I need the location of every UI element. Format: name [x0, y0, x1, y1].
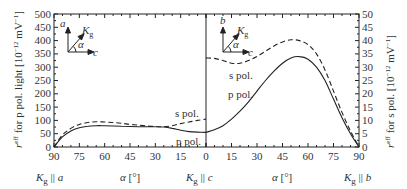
right-y-tick-label: 40	[362, 34, 374, 46]
left-x-tick-label: 60	[99, 150, 111, 162]
right-y-tick-label: 20	[362, 87, 374, 99]
right-y-tick-label: 35	[362, 47, 374, 59]
x-label-alpha-right: α [°]	[272, 171, 292, 183]
right-y-tick-label: 25	[362, 74, 374, 86]
right-s-pol-label: s pol.	[229, 69, 253, 81]
left-y-tick-label: 400	[35, 34, 52, 46]
right-y-tick-label: 10	[362, 114, 374, 126]
right-y-axis-label: reff for s pol. [10−12 mV−1]	[384, 35, 396, 148]
right-y-tick-label: 45	[362, 21, 374, 33]
inset-left-axis-a-label: a	[60, 17, 66, 29]
right-x-tick-label: 15	[226, 150, 238, 162]
left-y-tick-label: 150	[35, 101, 52, 113]
inset-right-axis-b-label: b	[220, 14, 226, 26]
right-x-tick-label: 30	[252, 150, 264, 162]
right-y-tick-label: 5	[362, 127, 368, 139]
left-y-tick-label: 100	[35, 114, 52, 126]
inset-right-alpha-label: α	[233, 38, 239, 50]
inset-right-axis-c-label: c	[248, 46, 253, 58]
right-y-tick-label: 15	[362, 101, 374, 113]
right-y-tick-label: 50	[362, 8, 374, 20]
left-y-tick-label: 350	[35, 47, 52, 59]
right-y-tick-label: 30	[362, 61, 374, 73]
left-x-tick-label: 30	[150, 150, 162, 162]
inset-left-axis-c-label: c	[93, 46, 98, 58]
right-x-tick-label: 75	[328, 150, 340, 162]
left-y-tick-label: 200	[35, 87, 52, 99]
chart: 0501001502002503003504004505000510152025…	[0, 0, 407, 189]
left-y-tick-label: 500	[35, 8, 52, 20]
right-x-tick-label: 45	[277, 150, 289, 162]
left-y-tick-label: 250	[35, 74, 52, 86]
left-x-tick-label: 0	[203, 150, 209, 162]
left-y-tick-label: 450	[35, 21, 52, 33]
inset-left-alpha-label: α	[78, 38, 84, 50]
left-x-tick-label: 15	[175, 150, 187, 162]
left-y-tick-label: 300	[35, 61, 52, 73]
right-x-tick-label: 60	[303, 150, 315, 162]
left-y-axis-label: reff for p pol. light [10−12 mV−1]	[12, 11, 24, 148]
left-y-tick-label: 50	[40, 127, 52, 139]
left-x-tick-label: 90	[49, 150, 61, 162]
left-p-pol-label: p pol.	[176, 135, 201, 147]
x-label-kg-parallel-b: Kg || b	[343, 171, 372, 186]
x-label-kg-parallel-c: Kg || c	[185, 171, 213, 186]
x-label-alpha-left: α [°]	[120, 171, 140, 183]
x-label-kg-parallel-a: Kg || a	[35, 171, 64, 186]
left-x-tick-label: 45	[125, 150, 137, 162]
plot-frame	[54, 14, 359, 147]
right-p-pol-label: p pol.	[228, 88, 253, 100]
left-s-pol-label: s pol.	[175, 107, 199, 119]
right-x-tick-label: 90	[354, 150, 366, 162]
left-x-tick-label: 75	[74, 150, 86, 162]
